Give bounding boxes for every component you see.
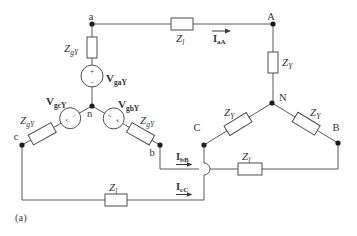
- impedance-label-source-c: ZgY: [20, 114, 35, 129]
- node-label-B: B: [332, 122, 339, 133]
- circuit-figure: + − + − − +: [0, 0, 357, 236]
- node-label-C: C: [193, 122, 200, 133]
- plus-sign-source-a: +: [90, 67, 94, 76]
- figure-caption: (a): [15, 212, 27, 224]
- impedance-label-source-a: ZgY: [64, 42, 79, 57]
- current-label-bB: IbB: [176, 151, 189, 164]
- node-dot-N: [269, 100, 274, 105]
- voltage-label-source-c: VgcY: [46, 95, 67, 110]
- impedance-box-line-top: [171, 18, 193, 30]
- impedance-label-line-middle: Zl: [242, 150, 250, 165]
- node-label-a: a: [89, 11, 94, 22]
- impedance-box-load-A: [268, 52, 278, 73]
- current-arrows: [176, 29, 231, 197]
- three-phase-circuit-diagram: + − + − − +: [0, 0, 357, 236]
- voltage-label-source-a: VgaY: [106, 72, 127, 87]
- node-label-N: N: [279, 92, 287, 103]
- node-label-n: n: [87, 108, 93, 119]
- current-labels: IaA IbB IcC: [176, 33, 226, 194]
- node-dot-b: [157, 142, 162, 147]
- impedance-label-source-b: ZgY: [140, 114, 155, 129]
- node-dot-B: [335, 140, 340, 145]
- impedance-label-line-bottom: Zl: [109, 181, 117, 196]
- node-dot-C: [201, 142, 206, 147]
- node-label-b: b: [149, 147, 154, 158]
- node-label-c: c: [14, 131, 19, 142]
- current-label-cC: IcC: [176, 181, 188, 194]
- node-label-A: A: [267, 11, 275, 22]
- impedance-label-load-C: ZY: [224, 106, 235, 121]
- current-label-aA: IaA: [213, 33, 226, 46]
- impedance-box-line-bottom: [105, 194, 127, 206]
- impedance-label-load-A: ZY: [282, 56, 293, 71]
- impedance-box-source-a: [87, 37, 97, 58]
- minus-sign-source-a: −: [90, 78, 94, 87]
- impedance-label-line-top: Zl: [176, 32, 184, 47]
- voltage-label-source-b: VgbY: [118, 98, 140, 113]
- impedance-box-line-middle: [238, 163, 262, 175]
- node-dot-A: [270, 21, 275, 26]
- impedance-label-load-B: ZY: [310, 106, 321, 121]
- node-dot-c: [19, 142, 24, 147]
- node-dot-a: [89, 21, 94, 26]
- wire-crossover-hop: [204, 163, 210, 175]
